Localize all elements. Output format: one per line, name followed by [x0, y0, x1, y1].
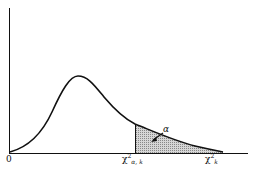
origin-label: 0	[6, 155, 12, 164]
chi-square-diagram	[0, 0, 255, 175]
subscript: k	[214, 158, 218, 165]
axis-variable-label: χ2k	[205, 155, 218, 164]
alpha-label: α	[163, 125, 169, 134]
density-curve	[10, 76, 223, 152]
critical-value-label: χ2α, k	[122, 155, 143, 164]
subscript: α, k	[131, 158, 143, 165]
